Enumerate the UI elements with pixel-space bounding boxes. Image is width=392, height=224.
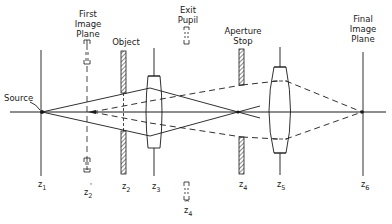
exit-pupil-label: Exit Pupil bbox=[175, 5, 201, 25]
aperture-stop-lower bbox=[239, 137, 244, 174]
source-arrow-icon bbox=[30, 102, 40, 110]
object-upper bbox=[121, 51, 126, 93]
position-label-z2-prime: z2' bbox=[84, 188, 92, 200]
object-lower bbox=[121, 131, 126, 174]
dashed-rays bbox=[92, 81, 362, 139]
position-label-z4: z4 bbox=[239, 180, 247, 192]
aperture-stop-upper bbox=[239, 49, 244, 85]
intermediate-focus-point bbox=[236, 110, 239, 113]
position-label-z6: z6 bbox=[361, 180, 369, 192]
object-label: Object bbox=[110, 37, 142, 47]
first-image-plane-label: First Image Plane bbox=[72, 9, 104, 39]
aperture-stop-label: Aperture Stop bbox=[222, 26, 264, 46]
exit-pupil bbox=[184, 27, 189, 200]
optical-system-diagram: Source First Image Plane Object Exit Pup… bbox=[0, 0, 392, 224]
first-image-plane bbox=[84, 40, 90, 172]
source-label: Source bbox=[4, 93, 33, 103]
position-label-z1: z1 bbox=[38, 180, 46, 192]
final-image-plane-label: Final Image Plane bbox=[348, 14, 378, 44]
position-label-z5: z5 bbox=[277, 180, 285, 192]
lens-2 bbox=[269, 47, 291, 175]
position-label-z4-hat: z4^ bbox=[184, 206, 192, 218]
diagram-canvas bbox=[0, 0, 392, 224]
position-label-z3: z3 bbox=[152, 182, 160, 194]
position-label-z2: z2 bbox=[122, 182, 130, 194]
